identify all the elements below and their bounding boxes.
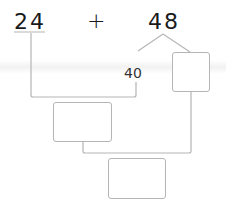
left-operand: 24 (14, 11, 46, 33)
right-operand: 48 (148, 11, 180, 33)
tens-decomposition: 40 (124, 66, 142, 80)
partial-sum-box[interactable] (53, 102, 112, 142)
final-sum-box[interactable] (108, 158, 166, 199)
ones-answer-box[interactable] (172, 52, 210, 92)
plus-operator: + (87, 10, 105, 32)
